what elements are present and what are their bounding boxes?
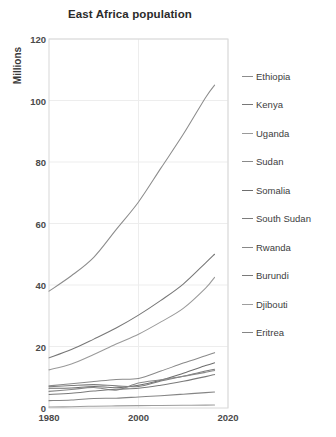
legend-dash-icon — [242, 218, 253, 219]
legend-dash-icon — [242, 275, 253, 276]
legend-item-label: Ethiopia — [256, 71, 290, 82]
series-line-burundi — [49, 374, 215, 394]
legend: EthiopiaKenyaUgandaSudanSomaliaSouth Sud… — [242, 62, 336, 347]
legend-item-label: Uganda — [256, 128, 289, 139]
legend-dash-icon — [242, 304, 253, 305]
y-tick-40: 40 — [12, 280, 46, 291]
legend-item-label: South Sudan — [256, 213, 311, 224]
legend-item-label: Somalia — [256, 185, 290, 196]
y-tick-80: 80 — [12, 157, 46, 168]
legend-item-djibouti[interactable]: Djibouti — [242, 290, 336, 319]
legend-dash-icon — [242, 104, 253, 105]
y-tick-120: 120 — [12, 34, 46, 45]
legend-item-label: Eritrea — [256, 327, 284, 338]
legend-dash-icon — [242, 76, 253, 77]
series-line-kenya — [49, 254, 215, 358]
series-line-sudan — [49, 353, 215, 386]
x-tick-2000: 2000 — [128, 412, 149, 423]
x-tick-2020: 2020 — [217, 412, 238, 423]
legend-dash-icon — [242, 190, 253, 191]
legend-dash-icon — [242, 161, 253, 162]
y-tick-20: 20 — [12, 341, 46, 352]
legend-dash-icon — [242, 133, 253, 134]
legend-item-label: Burundi — [256, 270, 289, 281]
legend-item-burundi[interactable]: Burundi — [242, 262, 336, 291]
legend-item-eritrea[interactable]: Eritrea — [242, 319, 336, 348]
series-line-ethiopia — [49, 85, 215, 291]
y-axis-ticks: 120 100 80 60 40 20 0 — [8, 0, 46, 437]
y-tick-100: 100 — [12, 95, 46, 106]
legend-item-label: Sudan — [256, 156, 283, 167]
legend-item-south-sudan[interactable]: South Sudan — [242, 205, 336, 234]
series-line-south-sudan — [49, 369, 215, 387]
series-line-uganda — [49, 277, 215, 370]
legend-item-rwanda[interactable]: Rwanda — [242, 233, 336, 262]
legend-item-label: Rwanda — [256, 242, 291, 253]
data-series-layer — [49, 85, 215, 407]
x-tick-1980: 1980 — [38, 412, 59, 423]
legend-item-somalia[interactable]: Somalia — [242, 176, 336, 205]
legend-item-label: Djibouti — [256, 299, 288, 310]
legend-item-sudan[interactable]: Sudan — [242, 148, 336, 177]
legend-dash-icon — [242, 247, 253, 248]
series-line-djibouti — [49, 405, 215, 407]
legend-item-uganda[interactable]: Uganda — [242, 119, 336, 148]
chart-container: East Africa population Millions 120 100 … — [0, 0, 336, 437]
legend-dash-icon — [242, 332, 253, 333]
legend-item-kenya[interactable]: Kenya — [242, 91, 336, 120]
y-tick-60: 60 — [12, 218, 46, 229]
legend-item-label: Kenya — [256, 99, 283, 110]
legend-item-ethiopia[interactable]: Ethiopia — [242, 62, 336, 91]
grid-lines — [49, 39, 228, 408]
